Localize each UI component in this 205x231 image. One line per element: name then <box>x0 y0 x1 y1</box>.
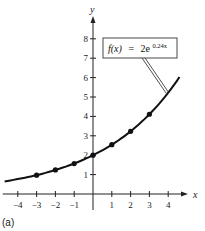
x-tick-label: −1 <box>69 200 79 210</box>
x-tick-label: 1 <box>110 200 115 210</box>
data-point <box>90 153 95 158</box>
x-axis-label: x <box>192 189 198 200</box>
y-axis-arrow-icon <box>91 16 96 23</box>
x-tick-label: −2 <box>51 200 61 210</box>
x-tick-label: 4 <box>166 200 171 210</box>
label-pointer-line <box>145 58 169 93</box>
data-point <box>53 167 58 172</box>
panel-label: (a) <box>2 217 14 228</box>
x-tick-label: −4 <box>13 200 23 210</box>
x-tick-label: 2 <box>128 200 133 210</box>
y-tick-label: 4 <box>84 111 89 121</box>
function-label: f(x) = 2e 0.24x <box>103 38 177 93</box>
fn-base: 2e <box>141 43 151 54</box>
data-point <box>72 161 77 166</box>
y-tick-label: 7 <box>84 53 89 63</box>
data-point <box>34 173 39 178</box>
y-tick-label: 3 <box>84 131 89 141</box>
data-point <box>109 142 114 147</box>
fn-lhs: f(x) <box>108 43 123 55</box>
y-axis-label: y <box>89 4 95 15</box>
data-point <box>128 129 133 134</box>
label-pointer-line <box>142 58 166 93</box>
y-tick-label: 1 <box>84 170 89 180</box>
x-tick-label: 3 <box>147 200 152 210</box>
exponential-chart: −4−3−2−1123412345678 f(x) = 2e 0.24x x y… <box>0 0 205 231</box>
y-tick-label: 8 <box>84 34 89 44</box>
x-tick-label: −3 <box>32 200 42 210</box>
x-axis-arrow-icon <box>181 192 188 197</box>
fn-eq: = <box>128 43 134 54</box>
fn-exponent: 0.24x <box>152 42 167 49</box>
function-curve <box>5 77 180 181</box>
ticks: −4−3−2−1123412345678 <box>13 34 171 210</box>
y-tick-label: 6 <box>84 73 89 83</box>
data-point <box>147 112 152 117</box>
y-tick-label: 5 <box>84 92 89 102</box>
